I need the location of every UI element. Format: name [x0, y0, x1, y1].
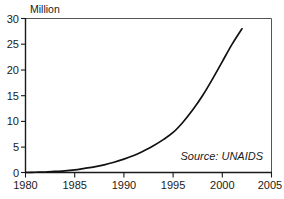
x-tick-label-2005: 2005	[258, 179, 282, 191]
y-tick-label-10: 10	[7, 115, 19, 127]
y-tick-label-5: 5	[13, 141, 19, 153]
y-tick-label-25: 25	[7, 38, 19, 50]
y-axis-label: Million	[30, 3, 60, 15]
y-axis: 30 25 20 15 10 5 0 Million	[7, 3, 60, 179]
y-tick-label-15: 15	[7, 90, 19, 102]
line-chart: 30 25 20 15 10 5 0 Million 1980	[0, 0, 284, 199]
x-tick-label-1995: 1995	[161, 179, 185, 191]
x-tick-label-1985: 1985	[62, 179, 86, 191]
chart-container: 30 25 20 15 10 5 0 Million 1980	[0, 0, 284, 199]
source-annotation: Source: UNAIDS	[180, 150, 263, 162]
y-tick-label-0: 0	[13, 167, 19, 179]
x-axis: 1980 1985 1990 1995 2000 2005	[13, 173, 282, 192]
x-axis-tick-labels: 1980 1985 1990 1995 2000 2005	[13, 179, 282, 191]
x-tick-label-2000: 2000	[210, 179, 234, 191]
y-axis-tick-labels: 30 25 20 15 10 5 0	[7, 13, 19, 179]
x-tick-label-1990: 1990	[112, 179, 136, 191]
x-axis-ticks	[26, 173, 272, 178]
x-tick-label-1980: 1980	[13, 179, 37, 191]
y-tick-label-20: 20	[7, 64, 19, 76]
y-tick-label-30: 30	[7, 13, 19, 25]
